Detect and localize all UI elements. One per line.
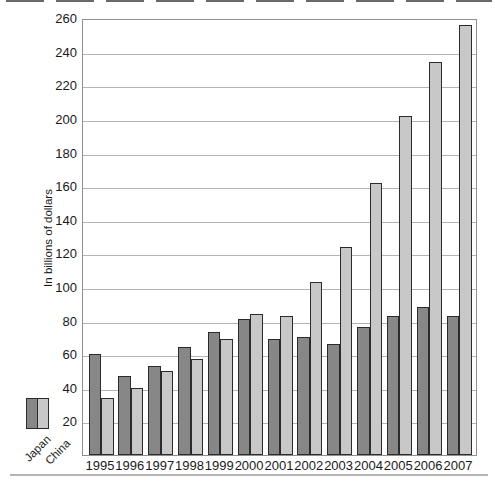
bar-china-1999 [220, 339, 233, 455]
y-tick-label-220: 220 [37, 78, 77, 94]
plot-area [82, 19, 477, 456]
top-crop-artifact [6, 0, 492, 2]
bar-china-2000 [250, 314, 263, 455]
bar-china-2005 [399, 116, 412, 456]
x-tick-label-2007: 2007 [436, 458, 480, 473]
bar-japan-1998 [178, 347, 191, 455]
gridline-180 [83, 155, 476, 156]
bar-china-1997 [161, 371, 174, 455]
bar-japan-2004 [357, 327, 370, 455]
gridline-100 [83, 289, 476, 290]
y-tick-label-160: 160 [37, 179, 77, 195]
y-tick-label-180: 180 [37, 146, 77, 162]
y-tick-label-120: 120 [37, 246, 77, 262]
bar-china-2006 [429, 62, 442, 455]
y-tick-label-140: 140 [37, 213, 77, 229]
gridline-120 [83, 255, 476, 256]
y-tick-label-100: 100 [37, 280, 77, 296]
bar-japan-1995 [89, 354, 102, 455]
y-tick-label-40: 40 [37, 381, 77, 397]
bar-japan-2006 [417, 307, 430, 455]
bar-japan-2000 [238, 319, 251, 455]
gridline-240 [83, 54, 476, 55]
y-tick-label-240: 240 [37, 45, 77, 61]
bar-japan-2003 [327, 344, 340, 455]
bar-china-2002 [310, 282, 323, 455]
gridline-140 [83, 222, 476, 223]
gridline-220 [83, 87, 476, 88]
bar-japan-1996 [118, 376, 131, 455]
bar-china-1995 [101, 398, 114, 455]
bar-japan-2005 [387, 316, 400, 456]
bar-japan-2007 [447, 316, 460, 456]
y-axis-title: In billions of dollars [42, 189, 54, 287]
bar-japan-2002 [297, 337, 310, 455]
bar-china-2007 [459, 25, 472, 455]
bar-china-2003 [340, 247, 353, 455]
bar-japan-1997 [148, 366, 161, 455]
y-tick-label-60: 60 [37, 347, 77, 363]
legend-swatch-china [37, 398, 49, 429]
bar-china-1998 [191, 359, 204, 455]
bar-japan-1999 [208, 332, 221, 455]
gridline-160 [83, 188, 476, 189]
bottom-rule [10, 474, 488, 476]
y-tick-label-200: 200 [37, 112, 77, 128]
trade-bar-chart-figure: In billions of dollars 20406080100120140… [0, 0, 495, 483]
bar-china-1996 [131, 388, 144, 455]
gridline-200 [83, 121, 476, 122]
bar-china-2004 [370, 183, 383, 455]
y-tick-label-260: 260 [37, 11, 77, 27]
bar-china-2001 [280, 316, 293, 456]
y-tick-label-80: 80 [37, 314, 77, 330]
bar-japan-2001 [268, 339, 281, 455]
